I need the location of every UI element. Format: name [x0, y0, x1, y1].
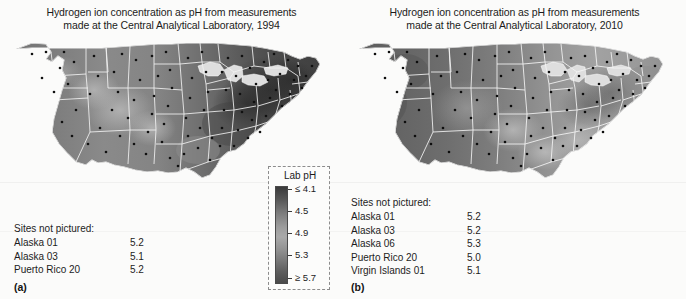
sites-heading-a: Sites not pictured: [14, 222, 94, 236]
figure-a-title: Hydrogen ion concentration as pH from me… [0, 6, 343, 32]
legend-tick-dash [288, 233, 292, 234]
legend-tick-label: ≥ 5.7 [295, 272, 316, 283]
site-value: 5.2 [130, 263, 144, 277]
ph-surface-b [345, 32, 684, 180]
sites-not-pictured-a: Sites not pictured: Alaska 01 5.2 Alaska… [14, 222, 94, 277]
ph-surface-a [2, 32, 341, 180]
figure-b-title-line2: made at the Central Analytical Laborator… [343, 19, 686, 32]
site-value: 5.2 [467, 224, 481, 238]
site-row: Alaska 03 5.2 [351, 224, 431, 238]
site-value: 5.1 [130, 250, 144, 264]
figure-b-title: Hydrogen ion concentration as pH from me… [343, 6, 686, 32]
figure-a-title-line1: Hydrogen ion concentration as pH from me… [0, 6, 343, 19]
site-value: 5.0 [467, 251, 481, 265]
site-row: Virgin Islands 01 5.1 [351, 264, 431, 278]
legend-tick-label: ≤ 4.1 [295, 183, 316, 194]
site-name: Alaska 03 [351, 224, 395, 238]
legend-tick-labels: ≤ 4.1 4.5 4.9 5.3 ≥ 5.7 [288, 186, 331, 284]
sites-heading-b: Sites not pictured: [351, 196, 431, 210]
legend-tick-dash [288, 189, 292, 190]
site-name: Alaska 01 [14, 236, 58, 250]
site-row: Alaska 01 5.2 [351, 210, 431, 224]
sites-not-pictured-b: Sites not pictured: Alaska 01 5.2 Alaska… [351, 196, 431, 278]
legend-tick-dash [288, 211, 292, 212]
site-name: Puerto Rico 20 [14, 263, 80, 277]
legend-title: Lab pH [269, 170, 331, 181]
site-row: Puerto Rico 20 5.0 [351, 251, 431, 265]
site-value: 5.2 [130, 236, 144, 250]
legend-color-bar [275, 186, 288, 284]
legend-tick-label: 4.9 [295, 227, 308, 238]
us-map-svg-b [345, 32, 684, 180]
us-map-svg-a [2, 32, 341, 180]
site-row: Alaska 03 5.1 [14, 250, 94, 264]
site-name: Alaska 03 [14, 250, 58, 264]
figure-b-title-line1: Hydrogen ion concentration as pH from me… [343, 6, 686, 19]
legend-tick-label: 4.5 [295, 205, 308, 216]
site-value: 5.1 [467, 264, 481, 278]
figure-panel-b: Hydrogen ion concentration as pH from me… [343, 0, 686, 299]
legend-tick-dash [288, 278, 292, 279]
panel-label-b: (b) [351, 281, 364, 293]
site-row: Puerto Rico 20 5.2 [14, 263, 94, 277]
map-b-2010 [345, 32, 684, 180]
site-row: Alaska 01 5.2 [14, 236, 94, 250]
site-name: Virgin Islands 01 [351, 264, 425, 278]
site-value: 5.2 [467, 210, 481, 224]
ph-legend: Lab pH ≤ 4.1 4.5 4.9 5.3 ≥ 5.7 [268, 166, 330, 290]
panel-label-a: (a) [14, 281, 27, 293]
figure-a-title-line2: made at the Central Analytical Laborator… [0, 19, 343, 32]
site-row: Alaska 06 5.3 [351, 237, 431, 251]
site-name: Puerto Rico 20 [351, 251, 417, 265]
site-name: Alaska 06 [351, 237, 395, 251]
map-a-1994 [2, 32, 341, 180]
site-value: 5.3 [467, 237, 481, 251]
site-name: Alaska 01 [351, 210, 395, 224]
legend-tick-dash [288, 255, 292, 256]
legend-tick-label: 5.3 [295, 249, 308, 260]
